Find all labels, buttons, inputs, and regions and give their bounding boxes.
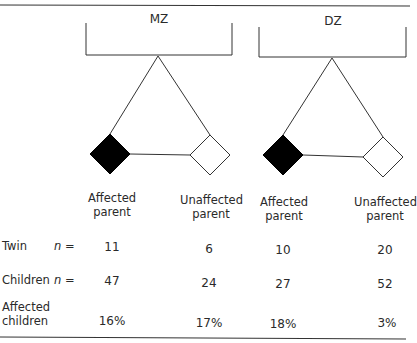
mz-bracket (86, 23, 232, 55)
dz-affected-header: Affected parent (258, 195, 310, 223)
affected-children-mz-unaffected: 17% (184, 316, 234, 330)
mz-affected-parent-icon (90, 134, 130, 174)
header-line1: Unaffected (180, 193, 242, 207)
top-rule (0, 5, 410, 6)
children-mz-unaffected: 24 (184, 276, 234, 290)
header-line2: parent (86, 205, 138, 219)
header-line2: parent (258, 209, 310, 223)
dz-unaffected-header: Unaffected parent (354, 195, 416, 223)
bottom-rule (0, 337, 406, 339)
mz-affected-header: Affected parent (86, 191, 138, 219)
pedigree-diagram (0, 0, 417, 343)
children-row-label: Children (2, 273, 50, 287)
dz-unaffected-parent-icon (363, 137, 403, 177)
affected-children-row-label: Affected children (2, 300, 50, 328)
header-line2: parent (180, 207, 242, 221)
header-line1: Affected (86, 191, 138, 205)
twin-row-label: Twin (2, 239, 27, 253)
row-label-line2: children (2, 314, 50, 328)
twin-dz-unaffected: 20 (360, 243, 410, 257)
header-line1: Unaffected (354, 195, 416, 209)
affected-children-dz-affected: 18% (258, 317, 308, 331)
children-n-label: n = (54, 273, 75, 287)
dz-base (303, 155, 363, 157)
mz-right-edge (158, 56, 210, 135)
mz-left-edge (110, 56, 158, 134)
row-label-line1: Affected (2, 300, 50, 314)
affected-children-dz-unaffected: 3% (362, 316, 412, 330)
twin-n-label: n = (54, 239, 75, 253)
mz-unaffected-parent-icon (190, 135, 230, 175)
dz-left-edge (283, 58, 332, 135)
children-mz-affected: 47 (87, 274, 137, 288)
children-dz-unaffected: 52 (360, 277, 410, 291)
mz-base (130, 154, 190, 155)
dz-right-edge (332, 58, 383, 137)
header-line2: parent (354, 209, 416, 223)
dz-bracket (259, 27, 406, 57)
mz-unaffected-header: Unaffected parent (180, 193, 242, 221)
dz-group-label: DZ (313, 14, 353, 28)
children-dz-affected: 27 (258, 277, 308, 291)
dz-affected-parent-icon (263, 135, 303, 175)
twin-dz-affected: 10 (258, 243, 308, 257)
twin-mz-unaffected: 6 (184, 242, 234, 256)
mz-group-label: MZ (139, 12, 179, 26)
header-line1: Affected (258, 195, 310, 209)
affected-children-mz-affected: 16% (87, 314, 137, 328)
twin-mz-affected: 11 (87, 240, 137, 254)
